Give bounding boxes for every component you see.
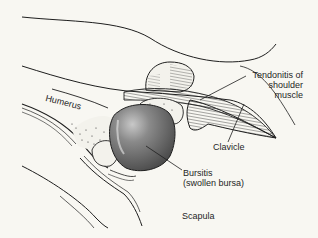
skin-outline (22, 17, 276, 62)
label-tendonitis-line3: muscle (243, 90, 303, 100)
label-bursitis-line2: (swollen bursa) (183, 178, 244, 188)
label-bursitis-line1: Bursitis (183, 168, 244, 178)
anatomy-illustration (0, 0, 318, 238)
label-clavicle: Clavicle (213, 142, 245, 152)
label-bursitis: Bursitis (swollen bursa) (183, 168, 244, 188)
shoulder-diagram: Tendonitis of shoulder muscle Humerus Cl… (0, 0, 318, 238)
label-tendonitis: Tendonitis of shoulder muscle (243, 70, 303, 100)
label-tendonitis-line1: Tendonitis of (243, 70, 303, 80)
swollen-bursa (110, 105, 175, 171)
label-tendonitis-line2: shoulder (243, 80, 303, 90)
leader-tendonitis (200, 76, 246, 100)
label-scapula: Scapula (182, 211, 215, 221)
